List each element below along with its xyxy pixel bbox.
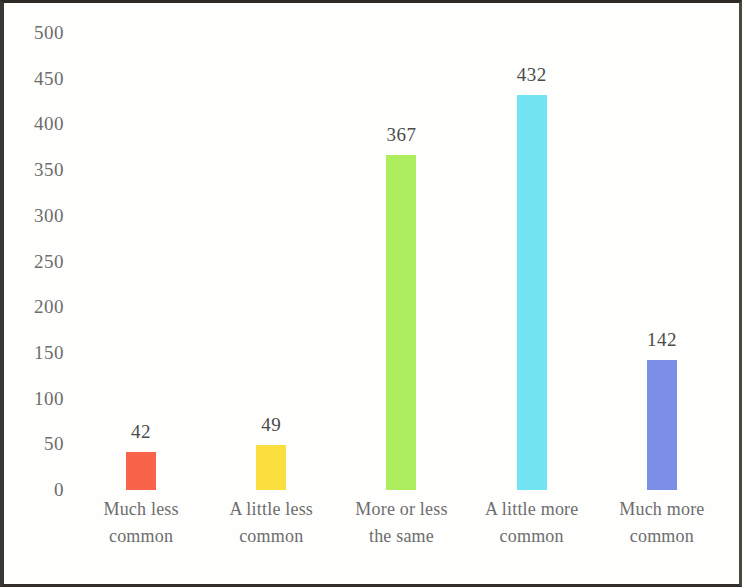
plot-area: 4249367432142 (76, 33, 727, 490)
x-axis-tick-label: A little morecommon (467, 496, 597, 550)
x-axis-tick-label: Much lesscommon (76, 496, 206, 550)
x-axis-tick-label-line1: A little less (206, 496, 336, 523)
bar-value-label: 49 (261, 414, 281, 436)
bar-group[interactable]: 367 (336, 33, 466, 490)
x-axis-tick-label-line2: common (467, 523, 597, 550)
x-axis: Much lesscommonA little lesscommonMore o… (76, 496, 727, 562)
bar-group[interactable]: 142 (597, 33, 727, 490)
bar-5[interactable] (647, 360, 677, 490)
y-axis-tick-label: 150 (34, 342, 64, 364)
bar-1[interactable] (126, 452, 156, 490)
y-axis: 050100150200250300350400450500 (4, 3, 76, 584)
x-axis-tick-label: More or lessthe same (336, 496, 466, 550)
x-axis-tick-label-line2: common (76, 523, 206, 550)
y-axis-tick-label: 450 (34, 68, 64, 90)
x-axis-tick-label-line2: the same (336, 523, 466, 550)
bar-chart-figure: 050100150200250300350400450500 424936743… (0, 0, 742, 587)
y-axis-tick-label: 400 (34, 113, 64, 135)
bar-4[interactable] (517, 95, 547, 490)
x-axis-tick-label-line2: common (597, 523, 727, 550)
bar-group[interactable]: 49 (206, 33, 336, 490)
y-axis-tick-label: 300 (34, 205, 64, 227)
bar-group[interactable]: 432 (467, 33, 597, 490)
y-axis-tick-label: 200 (34, 296, 64, 318)
y-axis-tick-label: 50 (44, 433, 64, 455)
x-axis-tick-label: Much morecommon (597, 496, 727, 550)
bar-3[interactable] (386, 155, 416, 490)
y-axis-tick-label: 100 (34, 388, 64, 410)
bar-2[interactable] (256, 445, 286, 490)
y-axis-tick-label: 350 (34, 159, 64, 181)
bar-value-label: 367 (386, 124, 416, 146)
y-axis-tick-label: 500 (34, 22, 64, 44)
bar-value-label: 142 (647, 329, 677, 351)
x-axis-tick-label: A little lesscommon (206, 496, 336, 550)
bar-value-label: 42 (131, 421, 151, 443)
bar-group[interactable]: 42 (76, 33, 206, 490)
y-axis-tick-label: 0 (54, 479, 64, 501)
x-axis-tick-label-line1: Much more (597, 496, 727, 523)
y-axis-tick-label: 250 (34, 251, 64, 273)
bar-value-label: 432 (517, 64, 547, 86)
x-axis-tick-label-line1: A little more (467, 496, 597, 523)
x-axis-tick-label-line1: Much less (76, 496, 206, 523)
plot-surface: 050100150200250300350400450500 424936743… (4, 3, 739, 584)
x-axis-tick-label-line1: More or less (336, 496, 466, 523)
x-axis-tick-label-line2: common (206, 523, 336, 550)
